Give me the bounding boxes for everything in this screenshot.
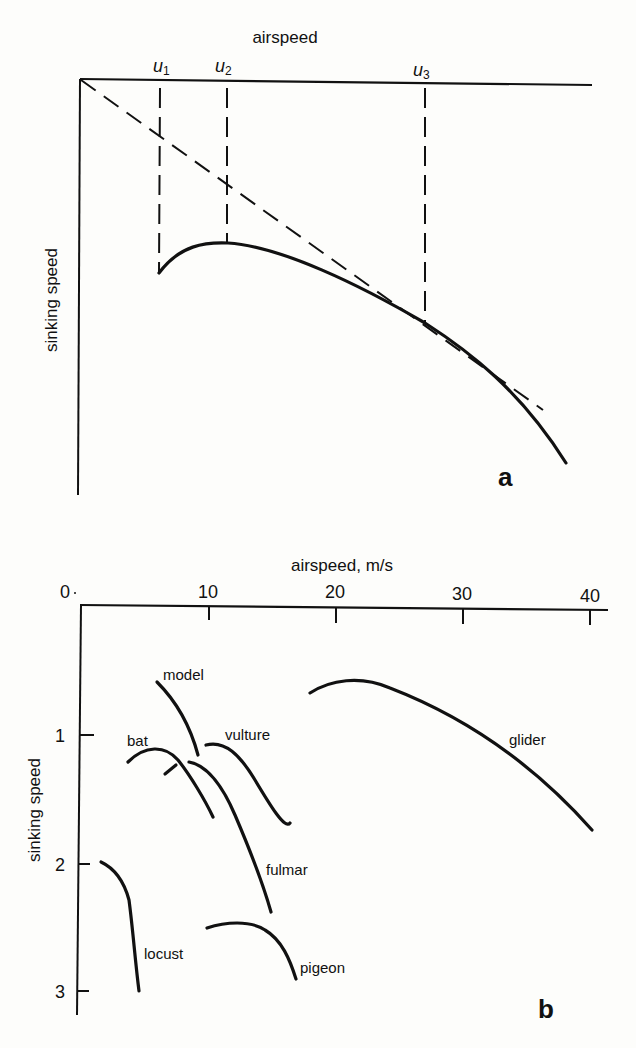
panel-a-y-axis xyxy=(78,79,80,495)
panel-a-x-label: airspeed xyxy=(252,28,317,47)
x-tick-10: 10 xyxy=(198,582,218,602)
panel-a-x-axis xyxy=(80,79,592,85)
u2-label: u2 xyxy=(215,56,232,78)
bat-stub-curve xyxy=(165,765,176,774)
y-tick-2: 2 xyxy=(55,855,65,875)
panel-a-label: a xyxy=(498,462,513,492)
u1-marker-line xyxy=(159,88,160,273)
vulture-label: vulture xyxy=(225,726,270,743)
y-tick-3: 3 xyxy=(55,982,65,1002)
polar-curve xyxy=(159,243,566,463)
bat-label: bat xyxy=(127,732,149,749)
panel-b-label: b xyxy=(538,994,554,1024)
origin-dot xyxy=(74,592,76,594)
x-tick-30: 30 xyxy=(452,584,472,604)
panel-b: airspeed, m/s 0 10 20 30 40 1 2 3 sinkin… xyxy=(25,556,608,1024)
glider-curve xyxy=(310,680,592,830)
x-tick-40: 40 xyxy=(580,586,600,606)
figure: airspeed u1 u2 u3 sinking speed a airspe… xyxy=(0,0,636,1048)
pigeon-curve xyxy=(207,923,296,979)
y-tick-1: 1 xyxy=(55,726,65,746)
panel-b-y-label: sinking speed xyxy=(25,758,44,862)
panel-b-y-axis xyxy=(77,605,81,1015)
glider-label: glider xyxy=(509,731,546,748)
x-tick-0: 0 xyxy=(60,582,70,602)
fulmar-label: fulmar xyxy=(266,861,308,878)
bat-curve xyxy=(128,749,213,817)
locust-label: locust xyxy=(144,945,184,962)
pigeon-label: pigeon xyxy=(300,959,345,976)
model-label: model xyxy=(163,666,204,683)
x-tick-20: 20 xyxy=(325,582,345,602)
locust-curve xyxy=(101,862,139,991)
u3-label: u3 xyxy=(413,60,430,82)
model-curve xyxy=(157,682,198,755)
u1-label: u1 xyxy=(153,56,170,78)
panel-a: airspeed u1 u2 u3 sinking speed a xyxy=(42,28,592,495)
panel-b-x-label: airspeed, m/s xyxy=(291,556,393,575)
panel-a-y-label: sinking speed xyxy=(42,248,61,352)
panel-b-x-axis xyxy=(80,605,608,610)
tangent-line xyxy=(81,80,543,410)
